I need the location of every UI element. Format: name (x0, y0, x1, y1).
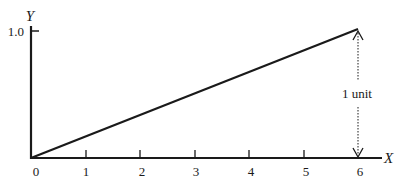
x-tick-label-1: 1 (83, 164, 90, 179)
x-tick-label-5: 5 (303, 164, 310, 179)
slope-line (31, 29, 358, 158)
x-tick-label-4: 4 (248, 164, 255, 179)
x-axis-label: X (383, 150, 394, 166)
x-tick-label-3: 3 (193, 164, 200, 179)
y-axis-label: Y (26, 8, 36, 24)
arrowhead-up-icon (353, 31, 363, 40)
x-tick-label-2: 2 (139, 164, 146, 179)
y-tick-label: 1.0 (8, 24, 24, 39)
x-ticks (86, 150, 304, 158)
origin-label: 0 (33, 164, 40, 179)
x-tick-label-6: 6 (357, 164, 364, 179)
slope-diagram: Y X 1.0 0 1 2 3 4 5 6 1 unit (0, 0, 406, 184)
unit-annotation-label: 1 unit (342, 86, 372, 101)
